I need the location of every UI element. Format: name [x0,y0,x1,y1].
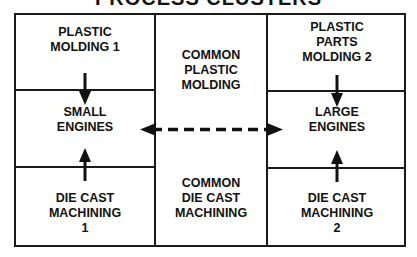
arrows-layer [0,0,417,257]
up-arrow-icon [79,148,91,181]
down-arrow-icon [79,73,91,105]
up-arrow-icon [331,150,343,182]
down-arrow-icon [331,75,343,107]
bidirectional-dashed-arrow-icon [140,123,283,136]
